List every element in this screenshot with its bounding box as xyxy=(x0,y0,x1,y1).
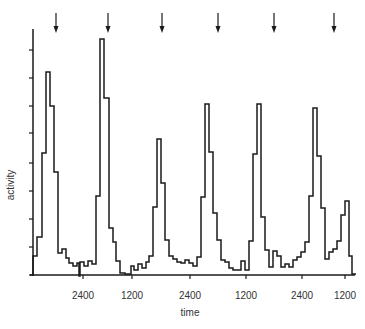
arrowhead-icon xyxy=(216,26,221,33)
x-tick-label: 1200 xyxy=(235,290,258,301)
x-tick-label: 1200 xyxy=(334,290,357,301)
x-tick-label: 2400 xyxy=(179,290,202,301)
arrowhead-icon xyxy=(332,26,337,33)
arrowhead-icon xyxy=(160,26,165,33)
event-arrows xyxy=(54,13,337,33)
x-tick-labels: 240012002400120024001200 xyxy=(72,290,357,301)
x-tick-label: 1200 xyxy=(121,290,144,301)
x-tick-label: 2400 xyxy=(72,290,95,301)
arrowhead-icon xyxy=(272,26,277,33)
activity-chart: 240012002400120024001200 time activity xyxy=(0,0,365,329)
x-axis-title: time xyxy=(181,307,200,318)
arrowhead-icon xyxy=(54,26,59,33)
arrowhead-icon xyxy=(106,26,111,33)
x-tick-label: 2400 xyxy=(291,290,314,301)
activity-step-trace xyxy=(33,39,356,276)
y-axis-title: activity xyxy=(5,170,16,201)
